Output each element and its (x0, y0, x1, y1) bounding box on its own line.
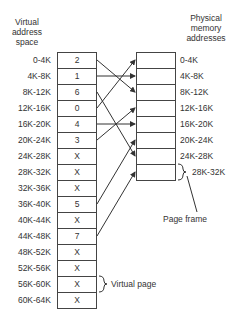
arrow-3-to-0 (97, 60, 135, 108)
page-frame-brace (178, 164, 186, 180)
arrow-9-to-5 (97, 140, 135, 204)
virtual-page-brace (99, 276, 107, 292)
mapping-arrows (0, 0, 238, 324)
arrow-11-to-7 (97, 172, 135, 236)
page-frame-pointer (187, 176, 197, 212)
